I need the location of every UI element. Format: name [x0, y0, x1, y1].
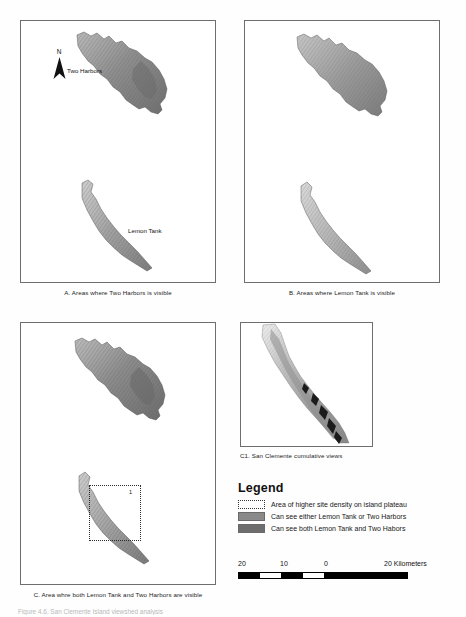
north-arrow-label: N — [48, 48, 70, 56]
scale-tick-10: 10 — [280, 560, 288, 567]
caption-panel-a: A. Areas where Two Harbors is visible — [20, 289, 216, 296]
scale-bar: 20 10 0 20 Kilometers — [238, 560, 438, 579]
island-north-shape — [297, 34, 387, 116]
legend-label-either-view: Can see either Lemon Tank or Two Harbors — [271, 512, 406, 521]
legend-item-either-view: Can see either Lemon Tank or Two Harbors — [238, 512, 462, 521]
map-panel-a: N Two Harbors Lemon Tank — [20, 20, 216, 283]
island-north-shape — [75, 338, 165, 420]
legend-label-both-views: Can see both Lemon Tank and Two Habors — [271, 524, 405, 533]
legend: Legend Area of higher site density on is… — [238, 481, 462, 536]
scale-bar-track — [238, 572, 408, 579]
scale-tick-20-left: 20 — [238, 560, 246, 567]
scale-seg-3 — [281, 573, 303, 578]
map-panel-c: 1 — [20, 322, 216, 585]
label-lemon-tank: Lemon Tank — [128, 227, 162, 234]
scale-seg-5 — [324, 573, 407, 578]
island-south-shape — [82, 180, 152, 271]
scale-tick-20-right: 20 Kilometers — [384, 560, 427, 567]
label-two-harbors: Two Harbors — [67, 67, 102, 74]
caption-panel-c1: C1. San Clemente cumulative views — [240, 452, 342, 459]
legend-swatch-both — [238, 524, 265, 533]
inset-reference-box — [89, 485, 141, 541]
panel-c1-detail — [241, 323, 373, 447]
caption-panel-b: B. Areas where Lemon Tank is visible — [244, 289, 440, 296]
legend-label-site-density: Area of higher site density on island pl… — [271, 500, 407, 509]
legend-swatch-either — [238, 512, 265, 521]
north-arrow-icon — [53, 57, 66, 80]
panel-b-islands — [245, 21, 440, 283]
island-south-shape — [301, 182, 371, 274]
legend-swatch-dotted — [238, 500, 265, 509]
legend-item-both-views: Can see both Lemon Tank and Two Habors — [238, 524, 462, 533]
inset-reference-number: 1 — [129, 489, 132, 495]
scale-tick-0: 0 — [324, 560, 328, 567]
figure-page: N Two Harbors Lemon Tank A. Areas where … — [0, 0, 466, 617]
panel-c-islands — [21, 323, 216, 585]
legend-item-site-density: Area of higher site density on island pl… — [238, 500, 462, 509]
legend-title: Legend — [238, 481, 462, 495]
figure-bottom-caption: Figure 4.6. San Clemente Island viewshed… — [18, 608, 448, 615]
scale-seg-4 — [303, 573, 324, 578]
north-arrow: N — [48, 48, 70, 82]
scale-seg-1 — [239, 573, 260, 578]
caption-panel-c: C. Area whre both Lemon Tank and Two Har… — [14, 591, 222, 598]
scale-bar-labels: 20 10 0 20 Kilometers — [238, 560, 438, 570]
scale-seg-2 — [260, 573, 281, 578]
map-panel-b — [244, 20, 440, 283]
map-panel-c1 — [240, 322, 373, 447]
